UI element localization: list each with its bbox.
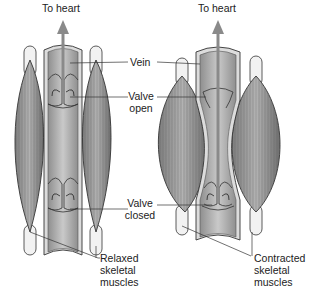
relaxed-panel — [15, 20, 111, 255]
valve-open-label: Valve open — [124, 90, 158, 114]
relaxed-muscles-label: Relaxed skeletal muscles — [100, 252, 139, 288]
contracted-to-heart-label: To heart — [198, 2, 236, 14]
relaxed-to-heart-label: To heart — [42, 2, 80, 14]
contracted-muscles-label: Contracted skeletal muscles — [254, 252, 305, 288]
contracted-panel — [158, 20, 280, 240]
venous-return-diagram: To heart To heart Vein Valve open Valve … — [0, 0, 310, 298]
relaxed-muscle-left — [15, 46, 44, 255]
vein-label: Vein — [130, 56, 150, 68]
relaxed-muscle-right — [83, 46, 112, 255]
valve-closed-label: Valve closed — [122, 197, 158, 221]
